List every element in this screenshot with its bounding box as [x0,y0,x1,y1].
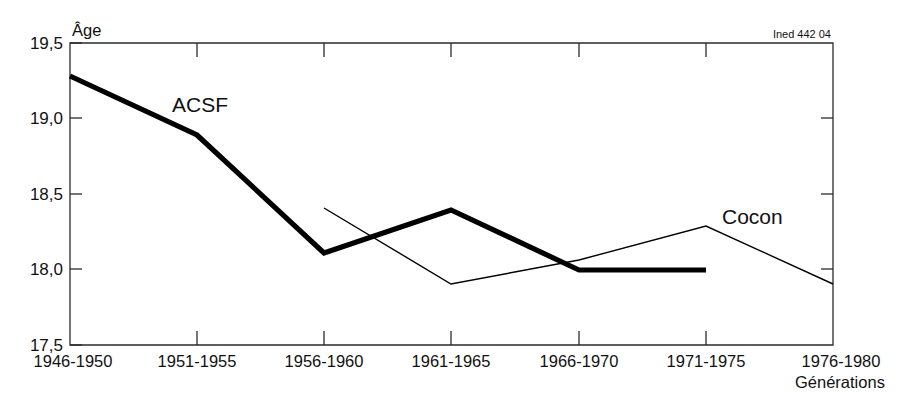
y-tick-label-18-5: 18,5 [30,185,63,204]
series-line-acsf [70,76,706,270]
y-axis-title: Âge [72,21,101,39]
x-tick-label-1946-1950: 1946-1950 [34,352,113,370]
y-axis-ticks [70,43,82,345]
series-label-acsf: ACSF [172,93,228,116]
axis-frame [70,43,833,345]
x-tick-label-1951-1955: 1951-1955 [158,352,237,370]
x-axis-ticks [197,43,706,345]
y-tick-label-19-0: 19,0 [30,109,63,128]
x-tick-label-1976-1980: 1976-1980 [802,352,881,370]
y-tick-label-19-5: 19,5 [30,34,63,53]
credit-label: Ined 442 04 [773,28,831,40]
x-tick-label-1956-1960: 1956-1960 [285,352,364,370]
x-axis-title: Générations [795,373,885,391]
x-tick-label-1961-1965: 1961-1965 [412,352,491,370]
y-axis-ticks-right [821,118,833,269]
chart-axes [70,43,833,345]
chart-figure: 19,5 19,0 18,5 18,0 17,5 Âge Ined 442 04… [0,0,900,410]
y-tick-label-18-0: 18,0 [30,260,63,279]
x-tick-label-1966-1970: 1966-1970 [540,352,619,370]
x-tick-label-1971-1975: 1971-1975 [667,352,746,370]
series-label-cocon: Cocon [722,205,783,228]
line-chart: 19,5 19,0 18,5 18,0 17,5 Âge Ined 442 04… [0,0,900,410]
